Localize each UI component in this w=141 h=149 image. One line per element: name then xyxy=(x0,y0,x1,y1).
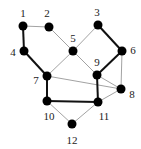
node-9 xyxy=(93,71,102,80)
node-label-2: 2 xyxy=(44,7,50,19)
edge-3-6 xyxy=(98,25,122,51)
edge-10-11 xyxy=(47,101,98,102)
node-label-1: 1 xyxy=(20,7,26,19)
node-3 xyxy=(94,21,103,30)
node-label-11: 11 xyxy=(99,110,110,122)
node-label-3: 3 xyxy=(94,6,100,18)
node-6 xyxy=(118,47,127,56)
node-1 xyxy=(19,22,28,31)
node-label-6: 6 xyxy=(130,44,136,56)
edge-3-5 xyxy=(73,25,98,51)
node-label-12: 12 xyxy=(67,134,78,146)
node-7 xyxy=(43,72,52,81)
edge-4-7 xyxy=(24,51,47,76)
node-11 xyxy=(94,98,103,107)
edge-5-7 xyxy=(47,51,73,76)
node-label-8: 8 xyxy=(129,88,135,100)
edge-6-9 xyxy=(97,51,122,75)
node-label-10: 10 xyxy=(44,110,56,122)
node-8 xyxy=(117,85,126,94)
node-5 xyxy=(69,47,78,56)
node-12 xyxy=(68,120,77,129)
node-2 xyxy=(45,23,54,32)
node-10 xyxy=(43,97,52,106)
node-label-9: 9 xyxy=(94,56,100,68)
node-label-5: 5 xyxy=(70,32,76,44)
edge-6-8 xyxy=(121,51,122,89)
node-label-4: 4 xyxy=(10,46,16,58)
graph-diagram: 123456789101112 xyxy=(0,0,141,149)
node-label-7: 7 xyxy=(33,74,39,86)
edge-11-12 xyxy=(72,102,98,124)
node-4 xyxy=(20,47,29,56)
